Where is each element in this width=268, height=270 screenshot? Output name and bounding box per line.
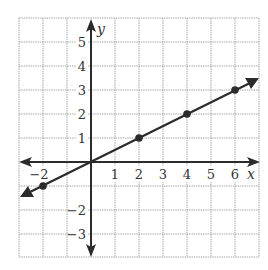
x-tick-6: 6 xyxy=(231,167,239,182)
y-tick-2: 2 xyxy=(78,107,86,122)
y-tick-5: 5 xyxy=(78,35,86,50)
point-6-3 xyxy=(231,86,239,94)
x-tick-labels: −2 1 2 3 4 5 6 xyxy=(29,167,239,182)
x-axis-label: x xyxy=(247,166,255,182)
y-tick-neg3: −3 xyxy=(67,227,86,242)
y-tick-neg2: −2 xyxy=(67,203,86,218)
coordinate-plane: 5 4 3 2 1 −2 −3 −2 1 2 3 4 5 6 x y xyxy=(0,0,268,270)
point-4-2 xyxy=(183,110,191,118)
x-tick-neg2: −2 xyxy=(29,167,48,182)
y-tick-3: 3 xyxy=(78,83,86,98)
x-tick-3: 3 xyxy=(159,167,167,182)
point-neg2-neg1 xyxy=(39,182,47,190)
x-tick-4: 4 xyxy=(183,167,191,182)
x-tick-1: 1 xyxy=(111,167,119,182)
y-tick-4: 4 xyxy=(78,59,86,74)
y-tick-1: 1 xyxy=(78,131,86,146)
x-tick-5: 5 xyxy=(207,167,215,182)
point-2-1 xyxy=(135,134,143,142)
x-tick-2: 2 xyxy=(135,167,143,182)
y-axis-label: y xyxy=(96,21,106,37)
